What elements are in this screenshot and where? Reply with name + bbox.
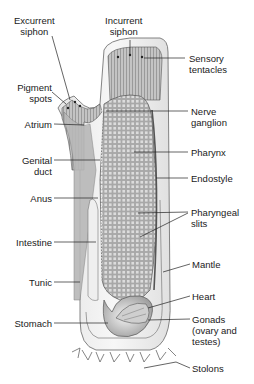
label-sensory-tentacles: Sensory tentacles	[189, 53, 227, 75]
label-endostyle: Endostyle	[191, 173, 233, 184]
incurrent-siphon-shape	[108, 47, 162, 100]
label-heart: Heart	[192, 291, 215, 302]
label-genital-duct: Genital duct	[8, 155, 52, 177]
label-stomach: Stomach	[2, 318, 52, 329]
pharynx-shape	[100, 95, 156, 301]
label-stolons: Stolons	[192, 363, 224, 374]
tunicate-diagram: Excurrent siphon Incurrent siphon Sensor…	[0, 0, 254, 384]
label-intestine: Intestine	[2, 237, 52, 248]
label-pigment-spots: Pigment spots	[10, 82, 52, 104]
label-excurrent-siphon: Excurrent siphon	[14, 15, 55, 37]
intestine-shape	[88, 199, 98, 300]
label-nerve-ganglion: Nerve ganglion	[191, 106, 227, 128]
label-gonads: Gonads (ovary and testes)	[192, 314, 237, 347]
label-pharynx: Pharynx	[191, 147, 226, 158]
label-tunic: Tunic	[8, 277, 52, 288]
label-mantle: Mantle	[192, 259, 221, 270]
label-incurrent-siphon: Incurrent siphon	[105, 15, 143, 37]
label-anus: Anus	[8, 193, 52, 204]
label-pharyngeal-slits: Pharyngeal slits	[191, 207, 239, 229]
label-atrium: Atrium	[10, 119, 52, 130]
